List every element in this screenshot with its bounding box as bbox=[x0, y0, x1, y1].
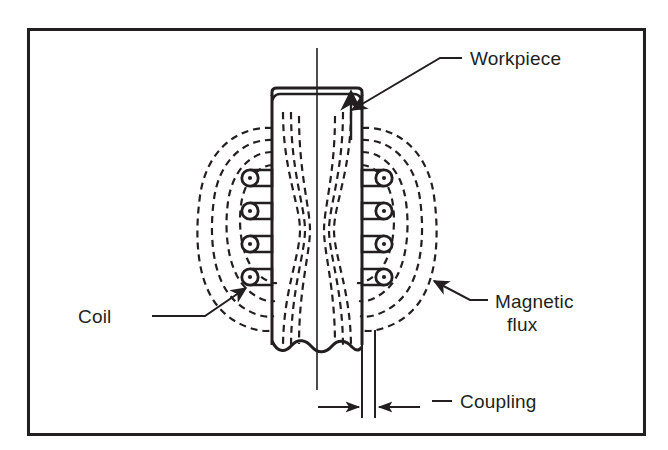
magnetic-flux-left bbox=[197, 128, 277, 331]
coil-right bbox=[362, 170, 392, 285]
eddy-current-diagram: Workpiece Coil Magnetic flux Coupling bbox=[0, 0, 668, 450]
magnetic-flux-label-line1: Magnetic bbox=[495, 291, 574, 312]
coil-turn bbox=[242, 170, 272, 186]
workpiece-leader bbox=[352, 58, 462, 110]
coil-turn bbox=[242, 269, 272, 285]
coil-turn bbox=[362, 203, 392, 219]
coupling-label: Coupling bbox=[460, 391, 537, 412]
coil-turn bbox=[242, 203, 272, 219]
diagram-frame bbox=[29, 30, 645, 435]
magnetic-flux-leader bbox=[434, 281, 488, 300]
magnetic-flux-label-line2: flux bbox=[507, 314, 538, 335]
coil-turn bbox=[362, 170, 392, 186]
coil-leader bbox=[152, 288, 246, 316]
coil-turn bbox=[362, 236, 392, 252]
coil-turn bbox=[242, 236, 272, 252]
workpiece-label: Workpiece bbox=[470, 48, 561, 69]
coil-turn bbox=[362, 269, 392, 285]
magnetic-flux-right bbox=[357, 128, 437, 331]
coil-label: Coil bbox=[78, 306, 112, 327]
coil-left bbox=[242, 170, 272, 285]
diagram-page: Workpiece Coil Magnetic flux Coupling bbox=[0, 0, 668, 450]
